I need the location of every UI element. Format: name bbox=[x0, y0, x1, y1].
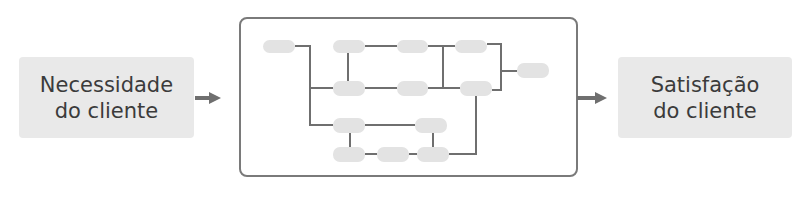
process-node bbox=[455, 40, 487, 53]
process-node bbox=[397, 40, 428, 53]
customer-satisfaction-box: Satisfação do cliente bbox=[618, 57, 792, 138]
process-node bbox=[333, 81, 365, 96]
process-node bbox=[263, 40, 295, 53]
arrow-right-icon bbox=[577, 92, 607, 104]
process-node bbox=[333, 118, 365, 133]
process-node bbox=[460, 81, 492, 96]
customer-satisfaction-line1: Satisfação bbox=[651, 72, 760, 98]
process-node bbox=[415, 118, 447, 133]
process-node bbox=[333, 147, 365, 162]
process-node bbox=[417, 147, 449, 162]
customer-satisfaction-line2: do cliente bbox=[653, 98, 756, 124]
process-node bbox=[377, 147, 409, 162]
diagram-canvas: Necessidade do cliente bbox=[0, 0, 811, 204]
process-node bbox=[397, 81, 428, 96]
process-node bbox=[517, 63, 549, 78]
process-node bbox=[333, 40, 365, 53]
arrow-right-icon bbox=[195, 92, 221, 104]
